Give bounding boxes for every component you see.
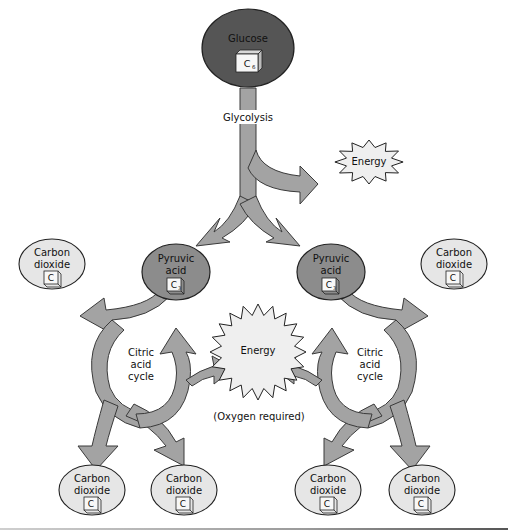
svg-text:C: C <box>171 280 177 290</box>
svg-text:3: 3 <box>333 285 336 291</box>
bottom-rule <box>0 528 508 530</box>
svg-text:cycle: cycle <box>128 371 154 382</box>
svg-text:acid: acid <box>360 359 381 370</box>
energy-top-label: Energy <box>351 156 386 167</box>
pyruvic-acid-left: Pyruvic acid C 3 <box>142 244 210 300</box>
svg-text:acid: acid <box>321 265 342 276</box>
carbon-dioxide-label: dioxide <box>404 485 440 496</box>
carbon-dioxide-label: Carbon <box>34 247 70 258</box>
carbon-dioxide-label: Carbon <box>310 473 346 484</box>
svg-text:C: C <box>88 499 94 509</box>
glucose-ellipse <box>202 9 294 87</box>
svg-text:C: C <box>450 273 456 283</box>
respiration-diagram: Glucose C 6 Glycolysis Energy Energy (Ox… <box>0 0 508 532</box>
citric-acid-cycle-right: Citric acid cycle <box>357 347 383 382</box>
svg-text:C: C <box>418 499 424 509</box>
oxygen-required-note: (Oxygen required) <box>213 411 305 422</box>
energy-center-label: Energy <box>240 345 275 356</box>
svg-text:Citric: Citric <box>128 347 154 358</box>
svg-text:Pyruvic: Pyruvic <box>158 253 195 264</box>
svg-text:C: C <box>324 499 330 509</box>
carbon-dioxide-label: dioxide <box>74 485 110 496</box>
svg-text:acid: acid <box>166 265 187 276</box>
carbon-dioxide-label: Carbon <box>74 473 110 484</box>
svg-text:Citric: Citric <box>357 347 383 358</box>
svg-text:C: C <box>244 58 251 69</box>
carbon-dioxide-node: CarbondioxideC <box>389 465 455 515</box>
carbon-dioxide-node: CarbondioxideC <box>151 465 217 515</box>
carbon-dioxide-node: CarbondioxideC <box>295 465 361 515</box>
carbon-dioxide-label: dioxide <box>310 485 346 496</box>
svg-text:6: 6 <box>252 64 256 70</box>
glucose-node: Glucose C 6 <box>202 9 294 87</box>
energy-center-node: Energy (Oxygen required) <box>210 304 306 422</box>
svg-text:acid: acid <box>131 359 152 370</box>
svg-text:Pyruvic: Pyruvic <box>313 253 350 264</box>
carbon-dioxide-label: dioxide <box>34 259 70 270</box>
carbon-cube-icon: C 6 <box>236 50 262 72</box>
carbon-dioxide-label: dioxide <box>166 485 202 496</box>
energy-top-node: Energy <box>335 140 403 184</box>
carbon-dioxide-node: CarbondioxideC <box>19 239 85 289</box>
left-cycle-arrows <box>78 290 234 470</box>
carbon-dioxide-node: CarbondioxideC <box>421 239 487 289</box>
svg-text:cycle: cycle <box>357 371 383 382</box>
citric-acid-cycle-left: Citric acid cycle <box>128 347 154 382</box>
svg-text:C: C <box>180 499 186 509</box>
svg-text:3: 3 <box>178 285 181 291</box>
carbon-dioxide-label: dioxide <box>436 259 472 270</box>
carbon-dioxide-label: Carbon <box>166 473 202 484</box>
pyruvic-acid-right: Pyruvic acid C 3 <box>297 244 365 300</box>
glucose-label: Glucose <box>228 33 268 44</box>
glycolysis-label: Glycolysis <box>223 112 273 123</box>
carbon-dioxide-label: Carbon <box>404 473 440 484</box>
svg-text:C: C <box>48 273 54 283</box>
right-cycle-arrows <box>274 290 430 470</box>
carbon-dioxide-node: CarbondioxideC <box>59 465 125 515</box>
carbon-dioxide-label: Carbon <box>436 247 472 258</box>
svg-text:C: C <box>326 280 332 290</box>
